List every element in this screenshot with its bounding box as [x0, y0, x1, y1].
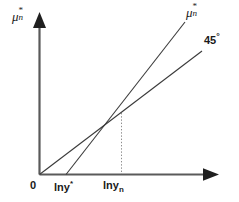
forty-five-degree-line — [40, 51, 203, 175]
x-tick-label-lny-star: lny* — [54, 180, 73, 193]
y-axis-label: μ * n — [12, 10, 19, 23]
mu-n-star-line — [66, 22, 185, 175]
curve-label-45-text: 45 — [204, 34, 216, 46]
diagram-canvas — [0, 0, 239, 202]
curve-label-mu-n-star: μ * n — [186, 6, 193, 19]
origin-label: 0 — [30, 180, 36, 191]
y-axis-arrowhead-icon — [33, 12, 46, 28]
x-tick-lny-star-base: lny — [54, 181, 70, 193]
x-axis-arrowhead-icon — [203, 168, 219, 181]
x-tick-lny-n-subscript: n — [119, 185, 124, 194]
x-tick-lny-n-base: lny — [103, 179, 119, 191]
economics-line-diagram: μ * n μ * n 45° 0 lny* lnyn — [0, 0, 239, 202]
x-tick-lny-star-superscript: * — [70, 179, 73, 188]
y-axis-label-subscript: n — [19, 13, 24, 22]
curve-label-mu-subscript: n — [193, 9, 198, 18]
curve-label-forty-five-degree: 45° — [204, 32, 220, 46]
degree-symbol-icon: ° — [216, 31, 220, 41]
x-tick-label-lny-n: lnyn — [103, 180, 124, 194]
